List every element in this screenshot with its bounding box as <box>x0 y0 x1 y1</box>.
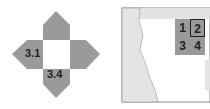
label-3-1: 3.1 <box>25 47 40 59</box>
map-cell-3: 3 <box>175 37 190 55</box>
map-cell-4: 4 <box>190 37 205 55</box>
map-cell-2-highlighted: 2 <box>190 19 205 37</box>
cube-net-diagram: 3.1 3.4 <box>0 0 105 109</box>
net-shape <box>0 0 105 109</box>
locator-map: 1 2 3 4 <box>105 0 210 109</box>
label-3-4: 3.4 <box>47 68 62 80</box>
map-cell-1: 1 <box>175 19 190 37</box>
